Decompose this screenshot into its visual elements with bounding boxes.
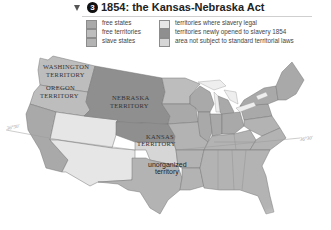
indiana (210, 114, 222, 136)
legend-label: territories where slavery legal (175, 19, 257, 26)
section-number-badge: 3 (87, 2, 98, 13)
legend-label: area not subject to standard territorial… (175, 37, 294, 44)
legend-label: territories newly opened to slavery 1854 (175, 28, 286, 35)
legend-swatch (159, 38, 170, 47)
map-title: 1854: the Kansas-Nebraska Act (101, 1, 264, 13)
oregon-label-2: TERRITORY (40, 92, 79, 99)
legend-swatch (86, 38, 97, 47)
kansas-label-1: KANSAS (146, 133, 174, 140)
nebraska-label-2: TERRITORY (110, 102, 149, 109)
oregon-label-1: OREGON (46, 84, 75, 91)
header-divider (82, 16, 312, 17)
unorganized-label-2: territory (155, 168, 179, 176)
kansas-label-2: TERRITORY (137, 140, 176, 147)
latitude-label-east: 36°30' (299, 135, 314, 142)
legend-label: free states (102, 19, 131, 26)
legend-swatch (86, 20, 97, 29)
washington-label-2: TERRITORY (46, 71, 85, 78)
legend-swatch (159, 29, 170, 38)
legend-label: slave states (102, 37, 135, 44)
legend-label: free territories (102, 28, 141, 35)
ohio (222, 112, 244, 134)
collapse-triangle-icon[interactable] (74, 5, 80, 11)
map-legend: free states free territories slave state… (86, 20, 331, 50)
new-england (276, 62, 304, 100)
washington-label-1: WASHINGTON (43, 63, 89, 70)
legend-swatch (86, 29, 97, 38)
deep-south (200, 150, 274, 214)
map-header: 3 1854: the Kansas-Nebraska Act (74, 2, 331, 16)
louisiana (180, 168, 204, 190)
latitude-label-west: 36°30' (6, 123, 21, 131)
us-map-1854: WASHINGTON TERRITORY OREGON TERRITORY NE… (0, 48, 331, 230)
nebraska-label-1: NEBRASKA (112, 94, 149, 101)
legend-swatch (159, 20, 170, 29)
